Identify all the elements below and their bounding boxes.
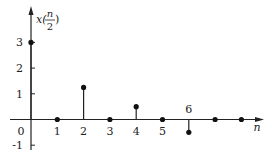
stem-marker	[81, 85, 86, 90]
y-axis-label-prefix: x(	[36, 13, 47, 26]
x-tick-label: 6	[185, 103, 192, 116]
x-tick-label: 0	[18, 125, 25, 138]
stem-plot: 321-10123456nx(n2)	[0, 0, 272, 159]
x-tick-label: 5	[159, 125, 166, 138]
x-tick-label: 4	[133, 125, 140, 138]
stem-marker	[213, 117, 218, 122]
x-tick-label: 1	[54, 125, 61, 138]
y-axis-label-numerator: n	[47, 8, 53, 19]
stem-marker	[239, 117, 244, 122]
stem-marker	[55, 117, 60, 122]
stem-marker	[186, 130, 191, 135]
x-tick-label: 2	[80, 125, 87, 138]
labels: 321-10123456nx(n2)	[12, 8, 260, 152]
stems	[28, 40, 244, 135]
y-tick-label: 1	[16, 88, 23, 101]
y-axis-label-denominator: 2	[47, 21, 53, 32]
stem-marker	[28, 40, 33, 45]
x-tick-label: 3	[106, 125, 113, 138]
stem-marker	[134, 104, 139, 109]
y-axis-label-suffix: )	[55, 13, 59, 26]
y-tick-label: 3	[16, 36, 23, 49]
y-axis-arrow-icon	[29, 6, 34, 15]
stem-marker	[107, 117, 112, 122]
stem-marker	[160, 117, 165, 122]
y-tick-label: -1	[12, 139, 23, 152]
y-tick-label: 2	[16, 62, 23, 75]
x-axis-label: n	[253, 121, 260, 134]
